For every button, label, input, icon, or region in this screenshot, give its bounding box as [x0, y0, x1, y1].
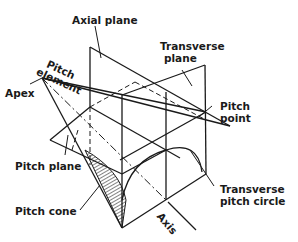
label-transverse-plane-line1: Transverse — [160, 40, 225, 52]
transverse-pitch-circle — [122, 148, 202, 200]
label-transverse-plane-line2: plane — [164, 52, 225, 64]
label-transverse-pitch-circle-line2: pitch circle — [220, 195, 285, 207]
label-transverse-pitch-circle-line1: Transverse — [220, 183, 285, 195]
label-transverse-pitch-circle: Transverse pitch circle — [220, 183, 285, 207]
label-apex: Apex — [5, 87, 35, 99]
label-pitch-cone: Pitch cone — [15, 205, 77, 217]
label-pitch-plane: Pitch plane — [15, 160, 81, 172]
label-transverse-plane: Transverse plane — [160, 40, 225, 64]
pitch-cone — [85, 150, 126, 228]
label-pitch-point-line1: Pitch — [220, 100, 251, 112]
label-axial-plane: Axial plane — [72, 14, 138, 26]
label-pitch-point-line2: point — [220, 112, 251, 124]
label-pitch-point: Pitch point — [220, 100, 251, 124]
